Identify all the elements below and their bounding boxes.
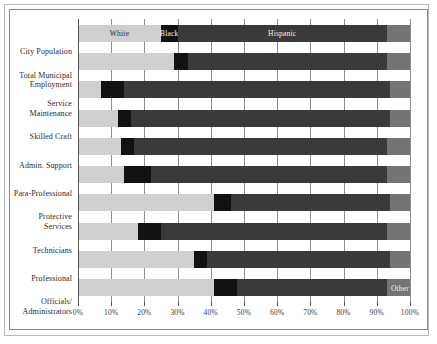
bar-segment-other <box>387 25 410 42</box>
bar-segment-black <box>121 138 134 155</box>
category-label-line: Service <box>0 99 72 109</box>
bar-segment-other <box>390 194 410 211</box>
gridline-100% <box>410 19 411 302</box>
bar-segment-white <box>78 166 124 183</box>
category-label-line: Protective <box>0 212 72 222</box>
bar-segment-white <box>78 81 101 98</box>
category-label: Para-Professional <box>0 189 72 199</box>
category-label-line: Officials/ <box>0 297 72 307</box>
category-label: ServiceMaintenance <box>0 99 72 118</box>
bar-segment-hispanic <box>237 279 386 296</box>
category-label-line: City Population <box>0 47 72 57</box>
category-label-line: Para-Professional <box>0 189 72 199</box>
bar-segment-hispanic <box>134 138 386 155</box>
bar-segment-other: Other <box>387 279 410 296</box>
bar-row <box>78 251 410 268</box>
x-tick <box>410 302 411 306</box>
category-label: Professional <box>0 274 72 284</box>
x-tick <box>377 302 378 306</box>
bar-segment-white <box>78 53 174 70</box>
bar-segment-hispanic <box>207 251 390 268</box>
x-tick <box>244 302 245 306</box>
bar-segment-other <box>387 138 410 155</box>
plot-area: City PopulationTotal MunicipalEmployment… <box>78 19 410 302</box>
category-label: Admin. Support <box>0 161 72 171</box>
bar-segment-other <box>390 251 410 268</box>
bar-segment-hispanic <box>161 223 387 240</box>
bar-row <box>78 53 410 70</box>
bar-segment-black <box>214 194 231 211</box>
x-tick <box>178 302 179 306</box>
x-tick <box>211 302 212 306</box>
bar-segment-black <box>124 166 151 183</box>
bar-segment-black <box>214 279 237 296</box>
category-label-line: Skilled Craft <box>0 132 72 142</box>
bar-segment-other <box>387 166 410 183</box>
bar-segment-hispanic: Hispanic <box>178 25 387 42</box>
x-tick <box>310 302 311 306</box>
bar-row: Other <box>78 279 410 296</box>
bar-segment-black <box>101 81 124 98</box>
bar-segment-black <box>174 53 187 70</box>
bar-segment-white <box>78 223 138 240</box>
category-label: Total MunicipalEmployment <box>0 71 72 90</box>
segment-label-hispanic: Hispanic <box>268 29 296 38</box>
bar-segment-black <box>138 223 161 240</box>
segment-label-other: Other <box>391 283 409 292</box>
bar-segment-white <box>78 251 194 268</box>
category-label-line: Employment <box>0 80 72 90</box>
category-label: Technicians <box>0 246 72 256</box>
category-label-line: Total Municipal <box>0 71 72 81</box>
bar-row <box>78 166 410 183</box>
bar-row <box>78 194 410 211</box>
bar-row <box>78 110 410 127</box>
category-label-line: Professional <box>0 274 72 284</box>
x-tick <box>78 302 79 306</box>
category-label-line: Maintenance <box>0 109 72 119</box>
figure: City PopulationTotal MunicipalEmployment… <box>0 0 437 344</box>
bar-segment-hispanic <box>124 81 390 98</box>
bar-segment-hispanic <box>131 110 390 127</box>
bar-segment-other <box>390 81 410 98</box>
bar-row: WhiteBlackHispanic <box>78 25 410 42</box>
segment-label-white: White <box>110 29 129 38</box>
bar-segment-black <box>118 110 131 127</box>
category-label-line: Services <box>0 222 72 232</box>
bar-segment-hispanic <box>188 53 387 70</box>
bar-segment-black: Black <box>161 25 178 42</box>
category-label-line: Admin. Support <box>0 161 72 171</box>
segment-label-black: Black <box>160 29 179 38</box>
bar-segment-white: White <box>78 25 161 42</box>
x-tick <box>111 302 112 306</box>
category-label-line: Technicians <box>0 246 72 256</box>
bar-segment-white <box>78 110 118 127</box>
bar-segment-hispanic <box>231 194 390 211</box>
x-tick-label: 100% <box>390 308 430 317</box>
category-axis-labels: City PopulationTotal MunicipalEmployment… <box>0 38 72 321</box>
bar-segment-white <box>78 194 214 211</box>
bar-segment-white <box>78 138 121 155</box>
bar-row <box>78 223 410 240</box>
bar-row <box>78 138 410 155</box>
bar-segment-hispanic <box>151 166 387 183</box>
category-label: ProtectiveServices <box>0 212 72 231</box>
bar-segment-other <box>387 223 410 240</box>
category-label: Skilled Craft <box>0 132 72 142</box>
bar-segment-other <box>387 53 410 70</box>
x-tick <box>144 302 145 306</box>
x-tick <box>344 302 345 306</box>
bar-segment-other <box>390 110 410 127</box>
bar-segment-white <box>78 279 214 296</box>
bar-segment-black <box>194 251 207 268</box>
category-label: City Population <box>0 47 72 57</box>
x-tick <box>277 302 278 306</box>
bar-row <box>78 81 410 98</box>
